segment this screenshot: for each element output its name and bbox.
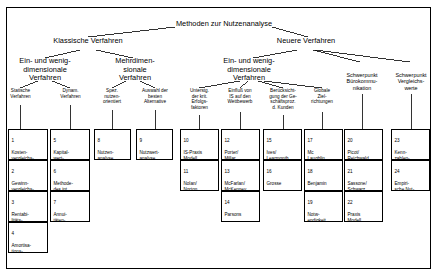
node-klassische-verfahren: Klassische Verfahren <box>44 37 132 46</box>
node-root: Methoden zur Nutzenanalyse <box>166 20 282 29</box>
leaf-number: 16 <box>267 169 300 175</box>
leaf-box[interactable]: 4 Amortisa- tions- rechnung <box>8 222 48 253</box>
leaf-label: Nutzwert- analyse <box>140 150 171 160</box>
leaf-box[interactable]: 24 Empiri- sche Nut- zendaten <box>391 160 430 191</box>
node-dynam-verfahren: Dynam. Verfahren <box>52 88 89 99</box>
leaf-box[interactable]: 3 Rentabi- litäts- rechnung <box>8 191 48 222</box>
leaf-box[interactable]: 10 IS-Praxis Modell <box>180 129 219 160</box>
leaf-number: 23 <box>395 138 428 144</box>
leaf-box[interactable]: 2 Gewinn- vergleichs- rechnung <box>8 160 48 191</box>
leaf-number: 3 <box>12 200 46 206</box>
leaf-box[interactable]: 9 Nutzwert- analyse <box>136 129 173 160</box>
leaf-label: McFarlan/ McKenney <box>225 181 258 191</box>
leaf-label: Kenn- zahlen- methode <box>395 150 428 160</box>
leaf-number: 8 <box>98 138 129 144</box>
leaf-number: 24 <box>395 169 428 175</box>
node-einfluss-is-wettbewerb: Einfluß von IS auf den Wettbewerb <box>218 88 262 105</box>
leaf-number: 11 <box>184 169 217 175</box>
leaf-box[interactable]: 17 Mc Laughlin <box>304 129 343 160</box>
node-ein-wenig-dimensional-neuere: Ein- und wenig- dimensionale Verfahren <box>211 57 287 83</box>
leaf-label: Parsons <box>225 212 258 218</box>
leaf-box[interactable]: 11 Nolan/ Norton <box>180 160 219 191</box>
leaf-label: Amortisa- tions- rechnung <box>12 243 46 253</box>
leaf-number: 5 <box>54 138 88 144</box>
leaf-number: 18 <box>308 169 341 175</box>
leaf-number: 7 <box>54 200 88 206</box>
node-globale-zielrichtungen: Globale Ziel- richtungen <box>303 88 341 105</box>
leaf-number: 19 <box>308 200 341 206</box>
node-spez-nutzenorientiert: Spez. nutzen- orientiert <box>95 88 129 105</box>
leaf-number: 10 <box>184 138 217 144</box>
leaf-box[interactable]: 5 Kapital- wert- methode <box>50 129 90 160</box>
leaf-box[interactable]: 6 Methode- des int. Zinsfußes <box>50 160 90 191</box>
leaf-box[interactable]: 13 McFarlan/ McKenney <box>221 160 260 191</box>
node-mehrdimensional: Mehrdimen- sionale Verfahren <box>104 57 166 83</box>
leaf-number: 20 <box>348 138 381 144</box>
node-beruecksichtigung-geschaeftsprozesse: Berücksicht- gung der Ge- schäftsproz. d… <box>259 88 307 110</box>
node-neuere-verfahren: Neuere Verfahren <box>266 37 346 46</box>
leaf-box[interactable]: 8 Nutzen- analyse <box>94 129 131 160</box>
leaf-number: 2 <box>12 169 46 175</box>
node-ein-wenig-dimensional-klassisch: Ein- und wenig- dimensionale Verfahren <box>7 57 83 83</box>
leaf-label: Kapital- wert- methode <box>54 150 88 160</box>
leaf-label: Nolan/ Norton <box>184 181 217 191</box>
node-schwerpunkt-buerokommunikation: Schwerpunkt Bürokommu- nikation <box>335 72 389 91</box>
leaf-box[interactable]: 18 Benjamin <box>304 160 343 191</box>
leaf-box[interactable]: 22 Praxis Modell <box>344 191 383 222</box>
leaf-box[interactable]: 19 Notw- endigkeit <box>304 191 343 222</box>
leaf-number: 4 <box>12 231 46 237</box>
leaf-label: Porter/ Millar <box>225 150 258 160</box>
leaf-box[interactable]: 15 Ives/ Learmonth <box>263 129 302 160</box>
leaf-number: 15 <box>267 138 300 144</box>
leaf-number: 9 <box>140 138 171 144</box>
leaf-label: Grosse <box>267 181 300 187</box>
leaf-label: Praxis Modell <box>348 212 381 222</box>
node-auswahl-beste-alternative: Auswahl der besten Alternative <box>133 88 177 105</box>
leaf-number: 6 <box>54 169 88 175</box>
leaf-label: Gewinn- vergleichs- rechnung <box>12 181 46 191</box>
leaf-label: Ives/ Learmonth <box>267 150 300 160</box>
leaf-label: Mc Laughlin <box>308 150 341 160</box>
leaf-box[interactable]: 12 Porter/ Millar <box>221 129 260 160</box>
node-statische-verfahren: Statische Verfahren <box>2 88 39 99</box>
leaf-box[interactable]: 20 Picot/ Reichwald <box>344 129 383 160</box>
leaf-label: Annui- täten- methode <box>54 212 88 222</box>
leaf-label: Notw- endigkeit <box>308 212 341 222</box>
node-schwerpunkt-vergleichswerte: Schwerpunkt Vergleichs- werte <box>386 72 436 91</box>
leaf-label: Empiri- sche Nut- zendaten <box>395 181 428 191</box>
leaf-box[interactable]: 21 Sassone/ Schwarz <box>344 160 383 191</box>
leaf-number: 22 <box>348 200 381 206</box>
leaf-label: IS-Praxis Modell <box>184 150 217 160</box>
leaf-label: Sassone/ Schwarz <box>348 181 381 191</box>
leaf-label: Methode- des int. Zinsfußes <box>54 181 88 191</box>
leaf-box[interactable]: 16 Grosse <box>263 160 302 191</box>
leaf-number: 17 <box>308 138 341 144</box>
leaf-box[interactable]: 23 Kenn- zahlen- methode <box>391 129 430 160</box>
diagram-page: Methoden zur Nutzenanalyse Klassische Ve… <box>0 0 440 279</box>
leaf-label: Benjamin <box>308 181 341 187</box>
leaf-number: 14 <box>225 200 258 206</box>
leaf-number: 12 <box>225 138 258 144</box>
leaf-number: 21 <box>348 169 381 175</box>
leaf-label: Rentabi- litäts- rechnung <box>12 212 46 222</box>
leaf-box[interactable]: 14 Parsons <box>221 191 260 222</box>
leaf-number: 1 <box>12 138 46 144</box>
leaf-number: 13 <box>225 169 258 175</box>
node-unterstuetzung-krit-erfolgsfaktoren: Unterstg. der krit. Erfolgs- faktoren <box>180 88 219 110</box>
leaf-box[interactable]: 7 Annui- täten- methode <box>50 191 90 222</box>
leaf-box[interactable]: 1 Kosten- vergleichs- rechnung <box>8 129 48 160</box>
leaf-label: Picot/ Reichwald <box>348 150 381 160</box>
leaf-label: Nutzen- analyse <box>98 150 129 160</box>
leaf-label: Kosten- vergleichs- rechnung <box>12 150 46 160</box>
